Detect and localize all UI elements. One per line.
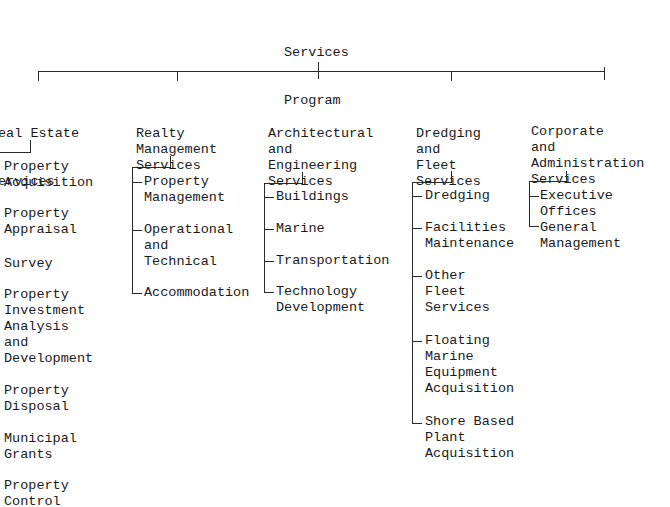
item-accommodation: Accommodation [144, 285, 249, 301]
bus-tick-1 [38, 71, 39, 81]
branch3-connector-h [264, 183, 303, 184]
root-title-line1: Services [284, 45, 349, 61]
branch5-trunk [529, 181, 530, 226]
branch5-tick [529, 196, 539, 197]
branch3-trunk [264, 183, 265, 293]
branch1-connector-h [0, 152, 31, 153]
item-executive-offices: ExecutiveOffices [540, 188, 613, 220]
branch5-connector-h [529, 181, 567, 182]
branch4-trunk [412, 182, 413, 424]
item-technology-development: TechnologyDevelopment [276, 284, 365, 316]
item-transportation: Transportation [276, 253, 389, 269]
item-property-disposal: PropertyDisposal [4, 383, 69, 415]
bus-tick-4 [451, 71, 452, 81]
branch3-tick [264, 292, 274, 293]
branch4-tick [412, 196, 422, 197]
branch2-tick [132, 182, 142, 183]
item-floating-marine-equipment: FloatingMarineEquipmentAcquisition [425, 333, 514, 397]
branch3-tick [264, 229, 274, 230]
item-property-control: PropertyControl [4, 478, 69, 507]
branch4-tick [412, 423, 422, 424]
branch5-tick [529, 226, 539, 227]
item-general-management: GeneralManagement [540, 220, 621, 252]
item-dredging: Dredging [425, 188, 490, 204]
item-operational-technical: OperationalandTechnical [144, 222, 233, 270]
branch4-connector-h [412, 182, 452, 183]
item-municipal-grants: MunicipalGrants [4, 431, 77, 463]
item-other-fleet-services: OtherFleetServices [425, 268, 490, 316]
item-buildings: Buildings [276, 189, 349, 205]
branch3-tick [264, 197, 274, 198]
item-property-management: PropertyManagement [144, 174, 225, 206]
item-property-acquisition: PropertyAcquisition [4, 159, 93, 191]
branch2-connector-h [132, 167, 171, 168]
branch4-tick [412, 276, 422, 277]
item-survey: Survey [4, 256, 53, 272]
branch4-tick [412, 341, 422, 342]
item-property-investment: PropertyInvestmentAnalysisandDevelopment [4, 287, 93, 367]
bus-tick-2 [177, 71, 178, 81]
item-shore-based-plant: Shore BasedPlantAcquisition [425, 414, 514, 462]
item-facilities-maintenance: FacilitiesMaintenance [425, 220, 514, 252]
branch3-tick [264, 261, 274, 262]
branch4-tick [412, 228, 422, 229]
bus-tick-5 [604, 67, 605, 80]
item-property-appraisal: PropertyAppraisal [4, 206, 77, 238]
item-marine: Marine [276, 221, 325, 237]
branch2-tick [132, 293, 142, 294]
top-bus-line [38, 71, 605, 72]
branch2-tick [132, 230, 142, 231]
